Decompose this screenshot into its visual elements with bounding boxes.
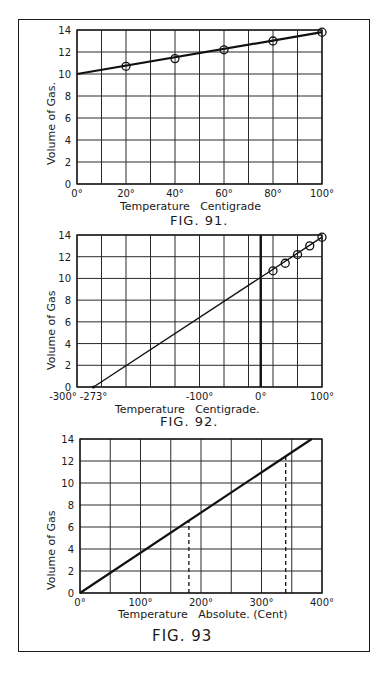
fig-91-xlabel: Temperature Centigrade <box>119 200 261 213</box>
y-tick-label: 6 <box>68 522 74 533</box>
y-tick-label: 4 <box>68 544 74 555</box>
x-tick-label: 100° <box>128 597 152 608</box>
y-tick-label: 4 <box>65 135 71 146</box>
x-tick-label: 300° <box>249 597 273 608</box>
y-tick-label: 14 <box>58 25 71 36</box>
x-tick-label: -100° <box>186 391 214 402</box>
fig-91-chart: 024681012140°20°40°60°80°100° <box>58 25 334 199</box>
trend-line <box>80 439 312 593</box>
fig-92-xlabel: Temperature Centigrade. <box>114 403 259 416</box>
y-tick-label: 2 <box>65 157 71 168</box>
fig-92-ylabel: Volume of Gas <box>45 290 58 370</box>
fig-93-ylabel: Volume of Gas <box>45 510 58 590</box>
x-tick-label: 200° <box>189 597 213 608</box>
fig-93-caption: FIG. 93 <box>152 627 212 645</box>
x-tick-label: 100° <box>310 391 334 402</box>
x-tick-label: 60° <box>215 188 233 199</box>
fig-93-chart: 024681012140°100°200°300°400° <box>61 434 334 608</box>
y-tick-label: 8 <box>68 500 74 511</box>
y-tick-label: 8 <box>65 295 71 306</box>
x-tick-label: 400° <box>310 597 334 608</box>
y-tick-label: 12 <box>61 456 74 467</box>
y-tick-label: 4 <box>65 339 71 350</box>
fig-92-caption: FIG. 92. <box>160 414 218 429</box>
y-tick-label: 6 <box>65 113 71 124</box>
fig-92-chart: 02468101214-300°-273°-100°0°100° <box>49 230 334 402</box>
y-tick-label: 14 <box>61 434 74 445</box>
y-tick-label: 10 <box>58 69 71 80</box>
x-tick-label: 100° <box>310 188 334 199</box>
y-tick-label: 2 <box>68 566 74 577</box>
x-tick-label: 40° <box>166 188 184 199</box>
y-tick-label: 2 <box>65 360 71 371</box>
y-tick-label: 0 <box>68 588 74 599</box>
y-tick-label: 8 <box>65 91 71 102</box>
y-tick-label: 10 <box>61 478 74 489</box>
x-tick-label: 0° <box>71 188 82 199</box>
x-tick-label: 0° <box>255 391 266 402</box>
x-tick-label: 20° <box>117 188 135 199</box>
x-tick-label: -273° <box>80 391 108 402</box>
fig-91-caption: FIG. 91. <box>170 213 228 228</box>
y-tick-label: 12 <box>58 252 71 263</box>
absolute-zero-point <box>92 385 95 388</box>
fig-93-xlabel: Temperature Absolute. (Cent) <box>117 608 288 621</box>
x-tick-label: -300° <box>49 391 77 402</box>
x-tick-label: 0° <box>74 597 85 608</box>
y-tick-label: 0 <box>65 179 71 190</box>
y-tick-label: 6 <box>65 317 71 328</box>
x-tick-label: 80° <box>264 188 282 199</box>
y-tick-label: 12 <box>58 47 71 58</box>
y-tick-label: 14 <box>58 230 71 241</box>
trend-line <box>94 237 322 387</box>
fig-91-ylabel: Volume of Gas. <box>45 82 58 165</box>
y-tick-label: 10 <box>58 273 71 284</box>
figures-canvas: 024681012140°20°40°60°80°100° 0246810121… <box>0 0 386 674</box>
